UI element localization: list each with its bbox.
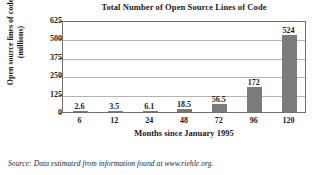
y-tick-label: 0 bbox=[26, 109, 62, 117]
bar bbox=[108, 111, 123, 112]
bar bbox=[282, 35, 297, 112]
y-axis-title-line2: (millions) bbox=[16, 0, 26, 94]
y-tick-label: 375 bbox=[26, 54, 62, 62]
bar bbox=[73, 111, 88, 112]
bar-value-label: 524 bbox=[271, 26, 306, 35]
bar-value-label: 6.1 bbox=[132, 102, 167, 111]
y-axis-title-line1: Open source lines of code bbox=[6, 0, 16, 94]
bar bbox=[247, 87, 262, 112]
x-axis-title: Months since January 1995 bbox=[62, 128, 306, 138]
x-tick-label: 6 bbox=[62, 116, 97, 125]
y-tick-mark bbox=[59, 113, 62, 114]
x-tick-label: 120 bbox=[271, 116, 306, 125]
bar bbox=[177, 109, 192, 112]
bar bbox=[143, 111, 158, 112]
gridline bbox=[63, 59, 305, 60]
bar-value-label: 3.5 bbox=[97, 102, 132, 111]
y-tick-label: 500 bbox=[26, 35, 62, 43]
bar-value-label: 172 bbox=[236, 78, 271, 87]
chart-figure: Total Number of Open Source Lines of Cod… bbox=[0, 0, 321, 175]
x-tick-label: 12 bbox=[97, 116, 132, 125]
bar-value-label: 56.5 bbox=[201, 95, 236, 104]
x-tick-label: 24 bbox=[132, 116, 167, 125]
gridline bbox=[63, 96, 305, 97]
bar-value-label: 18.5 bbox=[167, 100, 202, 109]
chart-title: Total Number of Open Source Lines of Cod… bbox=[62, 2, 306, 13]
x-tick-label: 72 bbox=[201, 116, 236, 125]
x-tick-label: 96 bbox=[236, 116, 271, 125]
source-note: Source: Data estimated from information … bbox=[8, 159, 214, 168]
bar-value-label: 2.6 bbox=[62, 102, 97, 111]
gridline bbox=[63, 40, 305, 41]
bar bbox=[212, 104, 227, 112]
x-tick-label: 48 bbox=[167, 116, 202, 125]
y-tick-label: 125 bbox=[26, 91, 62, 99]
y-tick-label: 625 bbox=[26, 17, 62, 25]
y-tick-label: 250 bbox=[26, 72, 62, 80]
